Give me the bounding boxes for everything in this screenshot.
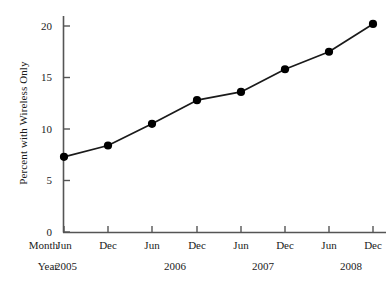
data-point xyxy=(193,96,201,104)
x-tick-label-5: Jun xyxy=(221,240,261,251)
x-tick-label-3: Jun xyxy=(132,240,172,251)
x-tick-label-4: Dec xyxy=(177,240,217,251)
data-point xyxy=(148,120,156,128)
data-series-line xyxy=(64,24,373,157)
chart-container: Percent with Wireless Only 20 15 10 5 0 xyxy=(0,0,392,282)
year-label-2006: 2006 xyxy=(145,261,205,272)
x-tick-label-6: Dec xyxy=(265,240,305,251)
y-axis-ticks xyxy=(64,26,71,232)
x-tick-label-2: Dec xyxy=(88,240,128,251)
data-point xyxy=(60,153,68,161)
x-axis-ticks xyxy=(64,226,373,233)
x-tick-label-1: Jun xyxy=(44,240,84,251)
data-point xyxy=(281,65,289,73)
year-label-2007: 2007 xyxy=(233,261,293,272)
data-point xyxy=(237,88,245,96)
x-tick-label-7: Jun xyxy=(309,240,349,251)
data-point xyxy=(369,20,377,28)
year-label-2008: 2008 xyxy=(321,261,381,272)
x-tick-label-8: Dec xyxy=(353,240,392,251)
year-label-2005: 2005 xyxy=(36,261,96,272)
data-point xyxy=(104,141,112,149)
data-series-markers xyxy=(60,20,377,161)
data-point xyxy=(325,48,333,56)
